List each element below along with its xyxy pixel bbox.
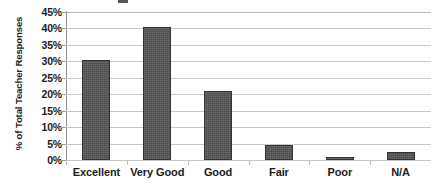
y-axis-tick-label: 30% xyxy=(16,55,62,67)
gridline xyxy=(66,45,431,46)
y-axis-tick-labels: 0%5%10%15%20%25%30%35%40%45% xyxy=(14,0,62,188)
bar xyxy=(204,91,232,160)
y-axis-tick-label: 45% xyxy=(16,6,62,18)
gridline xyxy=(66,61,431,62)
y-axis-tick-label: 20% xyxy=(16,88,62,100)
x-axis-tick-mark xyxy=(66,161,67,165)
x-axis-tick-mark xyxy=(309,161,310,165)
bar xyxy=(326,157,354,160)
y-axis-tick-label: 0% xyxy=(16,154,62,166)
y-axis-tick-label: 15% xyxy=(16,105,62,117)
bar xyxy=(265,145,293,160)
chart-title-cropped-fragment xyxy=(118,0,128,3)
x-axis-tick-mark xyxy=(370,161,371,165)
gridline xyxy=(66,144,431,145)
x-axis-tick-mark xyxy=(249,161,250,165)
gridline xyxy=(66,111,431,112)
y-axis-tick-mark xyxy=(61,61,66,62)
y-axis-tick-mark xyxy=(61,127,66,128)
gridline xyxy=(66,28,431,29)
plot-area xyxy=(66,12,431,160)
bar-chart: % of Total Teacher Responses 0%5%10%15%2… xyxy=(0,0,431,188)
y-axis-tick-label: 10% xyxy=(16,121,62,133)
y-axis-tick-mark xyxy=(61,144,66,145)
x-axis-tick-labels: ExcellentVery GoodGoodFairPoorN/A xyxy=(66,166,431,188)
gridline xyxy=(66,94,431,95)
y-axis-tick-label: 25% xyxy=(16,72,62,84)
bar xyxy=(82,60,110,160)
x-axis-tick-label: Very Good xyxy=(130,166,184,178)
y-axis-tick-mark xyxy=(61,45,66,46)
bar xyxy=(143,27,171,160)
x-axis-tick-label: Good xyxy=(204,166,232,178)
gridline xyxy=(66,12,431,13)
y-axis-tick-label: 5% xyxy=(16,138,62,150)
x-axis-tick-mark xyxy=(188,161,189,165)
y-axis-tick-mark xyxy=(61,111,66,112)
gridline xyxy=(66,78,431,79)
x-axis-tick-label: Poor xyxy=(327,166,352,178)
y-axis-tick-mark xyxy=(61,78,66,79)
x-axis-tick-label: N/A xyxy=(391,166,410,178)
y-axis-tick-mark xyxy=(61,12,66,13)
x-axis-tick-mark xyxy=(127,161,128,165)
gridline xyxy=(66,127,431,128)
bar xyxy=(387,152,415,160)
y-axis-tick-label: 35% xyxy=(16,39,62,51)
x-axis-tick-label: Fair xyxy=(269,166,289,178)
y-axis-tick-mark xyxy=(61,28,66,29)
y-axis-tick-mark xyxy=(61,94,66,95)
x-axis-tick-label: Excellent xyxy=(73,166,120,178)
y-axis-tick-label: 40% xyxy=(16,22,62,34)
